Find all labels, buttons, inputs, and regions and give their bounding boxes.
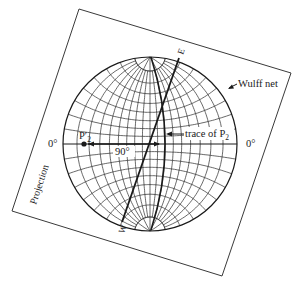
- arrowhead-icon: [154, 142, 160, 147]
- wulff-arrow-icon: [228, 85, 234, 90]
- label-left-zero: 0°: [48, 138, 57, 149]
- label-projection: Projection: [27, 163, 50, 205]
- diagram-canvas: 0° 0° 90° P′2 trace of P2 Wulff net E W …: [0, 0, 298, 286]
- label-west: W: [116, 223, 128, 235]
- label-right-zero: 0°: [246, 138, 255, 149]
- label-east: E: [175, 47, 186, 56]
- label-wulff-net: Wulff net: [238, 78, 278, 89]
- label-90-degrees: 90°: [115, 146, 130, 157]
- pole-point-p2: [81, 141, 86, 146]
